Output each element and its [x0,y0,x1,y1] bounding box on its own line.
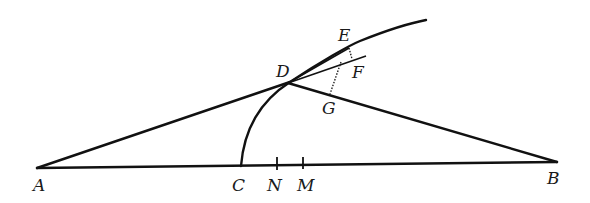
label-f: F [351,62,365,82]
label-m: M [296,175,315,195]
segment-ab [37,162,557,168]
label-n: N [266,175,283,195]
label-b: B [546,168,560,188]
dotted-segment-ef [349,48,352,59]
label-c: C [232,175,245,195]
geometry-diagram: A C N M B D E F G [0,0,590,203]
label-g: G [322,98,336,118]
segment-db [288,83,557,162]
arc-cd [241,20,426,166]
label-a: A [31,175,45,195]
label-e: E [337,25,351,45]
label-d: D [275,61,290,81]
